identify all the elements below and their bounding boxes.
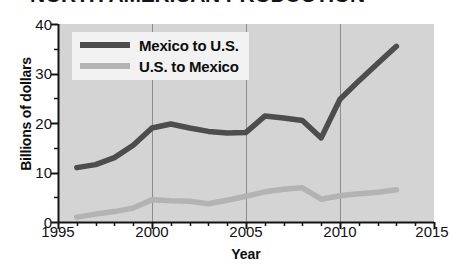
legend-swatch-icon <box>80 63 130 69</box>
legend-item-us-to-mexico: U.S. to Mexico <box>80 57 239 75</box>
chart-legend: Mexico to U.S. U.S. to Mexico <box>72 32 249 80</box>
x-axis-ticks <box>59 222 435 229</box>
legend-item-mexico-to-us: Mexico to U.S. <box>80 36 239 54</box>
chart-figure: NORTH AMERICAN PRODUCTION Billions of do… <box>0 0 452 264</box>
legend-label: Mexico to U.S. <box>139 37 239 54</box>
legend-label: U.S. to Mexico <box>139 58 239 75</box>
y-axis-ticks <box>51 25 58 223</box>
legend-swatch-icon <box>80 42 130 48</box>
